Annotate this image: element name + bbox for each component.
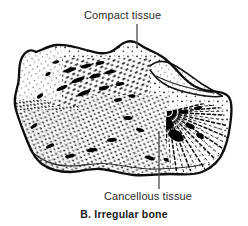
cancellous-tissue-label: Cancellous tissue bbox=[104, 190, 192, 202]
figure-caption: B. Irregular bone bbox=[0, 208, 248, 220]
bone-body bbox=[10, 38, 240, 185]
compact-tissue-label: Compact tissue bbox=[84, 9, 161, 21]
irregular-bone-figure: Compact tissue Cancellous tissue B. Irre… bbox=[0, 0, 248, 226]
